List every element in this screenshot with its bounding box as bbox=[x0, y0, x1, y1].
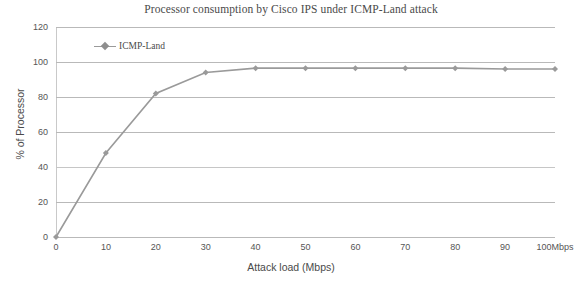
chart-container: Processor consumption by Cisco IPS under… bbox=[0, 0, 582, 285]
chart-legend: ICMP-Land bbox=[94, 41, 165, 51]
x-axis-tick-label: 50 bbox=[300, 242, 310, 253]
data-point-marker bbox=[552, 66, 558, 72]
y-axis-title: % of Processor bbox=[14, 54, 26, 194]
data-point-marker bbox=[253, 65, 259, 71]
data-point-marker bbox=[203, 70, 209, 76]
x-axis-tick-label: 40 bbox=[251, 242, 261, 253]
x-axis-tick-label: 60 bbox=[350, 242, 360, 253]
x-axis-tick-label: 10 bbox=[101, 242, 111, 253]
x-axis-tick-label: 70 bbox=[400, 242, 410, 253]
legend-marker-icon bbox=[94, 42, 116, 51]
y-axis-tick-label: 120 bbox=[0, 22, 48, 32]
series-icmp-land bbox=[56, 27, 555, 237]
x-axis-tick-label: 0 bbox=[53, 242, 58, 253]
data-point-marker bbox=[303, 65, 309, 71]
data-point-marker bbox=[502, 66, 508, 72]
plot-area bbox=[56, 27, 555, 237]
y-axis-tick-label: 0 bbox=[0, 232, 48, 242]
x-axis-tick-labels: 0102030405060708090100Mbps bbox=[0, 242, 582, 256]
x-axis-tick-label: 20 bbox=[151, 242, 161, 253]
x-axis-tick-label: 80 bbox=[450, 242, 460, 253]
chart-title: Processor consumption by Cisco IPS under… bbox=[0, 3, 582, 15]
x-axis-tick-label: 100Mbps bbox=[536, 242, 573, 253]
gridline bbox=[56, 237, 555, 238]
data-point-marker bbox=[452, 65, 458, 71]
legend-item-label: ICMP-Land bbox=[119, 41, 165, 51]
data-point-marker bbox=[402, 65, 408, 71]
data-point-marker bbox=[352, 65, 358, 71]
x-axis-tick-label: 30 bbox=[201, 242, 211, 253]
x-axis-title: Attack load (Mbps) bbox=[0, 261, 582, 273]
y-axis-tick-label: 20 bbox=[0, 197, 48, 207]
x-axis-tick-label: 90 bbox=[500, 242, 510, 253]
